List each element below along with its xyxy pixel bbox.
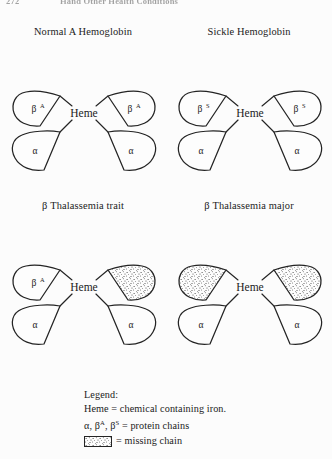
heme-center-label: Heme xyxy=(236,107,263,119)
spoke-bottom-right xyxy=(262,294,274,306)
spoke-bottom-left xyxy=(60,294,72,306)
lobe-label-top-left: β xyxy=(198,103,203,114)
legend-line-heme: Heme = chemical containing iron. xyxy=(84,402,324,416)
heme-center-label: Heme xyxy=(236,281,263,293)
lobe-label-top-right: β xyxy=(294,103,299,114)
spoke-top-left xyxy=(226,96,238,106)
lobe-superscript-top-right: A xyxy=(136,102,141,109)
diagram-beta-thalassemia-major: α α Heme xyxy=(166,222,332,354)
heme-center-label: Heme xyxy=(70,107,97,119)
panel-title-normal-a-hemoglobin: Normal A Hemoglobin xyxy=(0,26,166,37)
spoke-bottom-left xyxy=(226,120,238,132)
panel-title-beta-thalassemia-trait: β Thalassemia trait xyxy=(0,200,166,211)
lobe-label-top-left: β xyxy=(32,103,37,114)
lobe-top-left xyxy=(13,265,60,300)
spoke-top-right xyxy=(96,96,108,106)
legend-chains-alpha-beta: α, β xyxy=(84,421,100,432)
legend-line-protein-chains: α, βA, βS = protein chains xyxy=(84,416,324,434)
page-folio: 272 xyxy=(6,0,19,6)
lobe-superscript-top-left: A xyxy=(40,276,45,283)
legend-heading: Legend: xyxy=(84,388,324,402)
lobe-label-bottom-right: α xyxy=(128,319,133,330)
lobe-label-bottom-left: α xyxy=(198,145,203,156)
stipple-swatch-icon xyxy=(84,436,112,447)
lobe-top-left xyxy=(179,91,226,126)
lobe-top-left-missing xyxy=(179,265,226,300)
lobe-label-bottom-right: α xyxy=(128,145,133,156)
legend-missing-chain-text: = missing chain xyxy=(116,434,182,448)
legend: Legend: Heme = chemical containing iron.… xyxy=(84,388,324,448)
lobe-top-right-missing xyxy=(274,265,321,300)
lobe-label-top-left: β xyxy=(32,277,37,288)
lobe-label-bottom-left: α xyxy=(32,319,37,330)
spoke-bottom-right xyxy=(96,120,108,132)
spoke-top-right xyxy=(262,270,274,280)
lobe-label-top-right: β xyxy=(128,103,133,114)
spoke-bottom-left xyxy=(226,294,238,306)
panel-title-sickle-hemoglobin: Sickle Hemoglobin xyxy=(166,26,332,37)
legend-chains-separator: , β xyxy=(105,421,116,432)
running-head-title: Hand Other Health Conditions xyxy=(60,0,178,6)
lobe-label-bottom-right: α xyxy=(294,145,299,156)
spoke-top-left xyxy=(60,270,72,280)
lobe-label-bottom-right: α xyxy=(294,319,299,330)
running-head: 272 Hand Other Health Conditions xyxy=(0,0,332,8)
lobe-top-right-missing xyxy=(108,265,155,300)
spoke-bottom-right xyxy=(96,294,108,306)
lobe-top-left xyxy=(13,91,60,126)
spoke-top-right xyxy=(262,96,274,106)
lobe-superscript-top-right: S xyxy=(302,102,306,109)
lobe-label-bottom-left: α xyxy=(198,319,203,330)
diagram-normal-a-hemoglobin: β A β A α α Heme xyxy=(0,48,166,180)
lobe-superscript-top-left: S xyxy=(206,102,210,109)
spoke-bottom-left xyxy=(60,120,72,132)
spoke-top-left xyxy=(60,96,72,106)
legend-chains-definition: = protein chains xyxy=(119,421,189,432)
lobe-superscript-top-left: A xyxy=(40,102,45,109)
lobe-label-bottom-left: α xyxy=(32,145,37,156)
spoke-top-left xyxy=(226,270,238,280)
legend-line-missing-chain: = missing chain xyxy=(84,434,324,448)
spoke-top-right xyxy=(96,270,108,280)
diagram-sickle-hemoglobin: β S β S α α Heme xyxy=(166,48,332,180)
heme-center-label: Heme xyxy=(70,281,97,293)
panel-title-beta-thalassemia-major: β Thalassemia major xyxy=(166,200,332,211)
diagram-beta-thalassemia-trait: β A α α Heme xyxy=(0,222,166,354)
spoke-bottom-right xyxy=(262,120,274,132)
